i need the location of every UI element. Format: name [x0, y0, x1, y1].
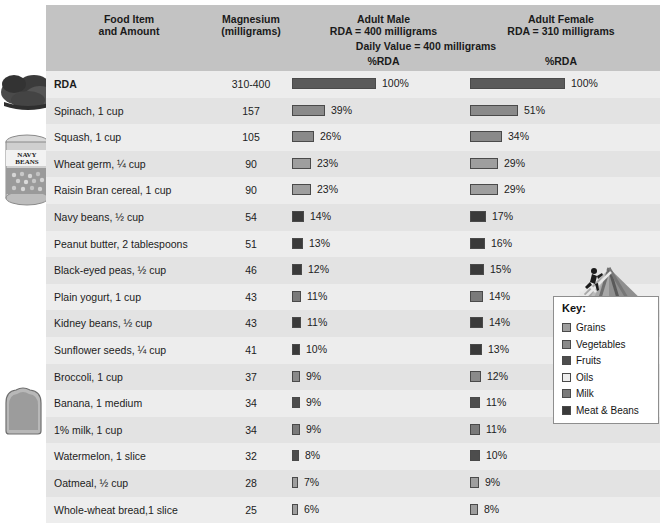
magnesium-value: 25 — [196, 503, 306, 517]
bar-female — [470, 105, 518, 116]
table-row: Whole-wheat bread,1 slice256%8% — [46, 497, 660, 523]
svg-text:BEANS: BEANS — [15, 158, 38, 166]
bar-label-male: 11% — [307, 290, 327, 303]
column-header-magnesium: Magnesium (milligrams) — [196, 13, 306, 37]
bar-cell-male: 14% — [292, 211, 472, 223]
column-header-food-line1: Food Item — [54, 13, 204, 25]
bar-cell-male: 26% — [292, 131, 472, 143]
bar-label-female: 51% — [524, 104, 545, 117]
table-row: Raisin Bran cereal, 1 cup9023%29% — [46, 177, 660, 204]
bar-female — [470, 317, 483, 328]
bar-cell-female: 29% — [470, 158, 660, 170]
pct-rda-male-label: %RDA — [301, 55, 466, 67]
bar-cell-female: 17% — [470, 211, 660, 223]
table-row: Navy beans, ½ cup5414%17% — [46, 204, 660, 231]
bar-label-male: 6% — [304, 503, 319, 516]
bar-cell-male: 23% — [292, 184, 472, 196]
bar-cell-male: 12% — [292, 264, 472, 276]
bar-male — [292, 238, 303, 249]
legend-swatch-icon — [562, 356, 571, 365]
bar-label-female: 8% — [484, 503, 499, 516]
column-header-adult-male-line1: Adult Male — [301, 13, 466, 25]
table-row: Oatmeal, ½ cup287%9% — [46, 470, 660, 497]
bar-label-male: 9% — [306, 370, 321, 383]
bar-label-female: 13% — [488, 343, 509, 356]
legend-key-box: Key: GrainsVegetablesFruitsOilsMilkMeat … — [553, 296, 659, 424]
column-header-adult-female-line2: RDA = 310 milligrams — [466, 25, 656, 37]
bar-female — [470, 344, 482, 355]
table-row: Peanut butter, 2 tablespoons5113%16% — [46, 231, 660, 258]
column-header-adult-male-line2: RDA = 400 milligrams — [301, 25, 466, 37]
bar-female — [470, 78, 565, 89]
column-header-food-line2: and Amount — [54, 25, 204, 37]
bar-cell-female: 10% — [470, 450, 660, 462]
column-header-adult-female: Adult Female RDA = 310 milligrams — [466, 13, 656, 37]
bread-slice-icon — [0, 385, 47, 437]
bar-male — [292, 504, 298, 515]
bar-label-female: 16% — [491, 237, 512, 250]
bar-cell-male: 9% — [292, 424, 472, 436]
magnesium-value: 310-400 — [196, 77, 306, 91]
canned-beans-icon: NAVY BEANS — [2, 130, 52, 208]
legend-title: Key: — [562, 302, 586, 314]
bar-label-male: 23% — [317, 183, 338, 196]
bar-female — [470, 424, 480, 435]
magnesium-value: 46 — [196, 263, 306, 277]
legend-swatch-icon — [562, 323, 571, 332]
magnesium-value: 28 — [196, 476, 306, 490]
table-row: Squash, 1 cup10526%34% — [46, 124, 660, 151]
legend-item-label: Milk — [576, 387, 594, 400]
bar-male — [292, 371, 300, 382]
daily-value-note: Daily Value = 400 milligrams — [196, 40, 656, 52]
legend-item-label: Fruits — [576, 354, 601, 367]
legend-swatch-icon — [562, 340, 571, 349]
bar-male — [292, 78, 376, 89]
column-header-adult-male: Adult Male RDA = 400 milligrams — [301, 13, 466, 37]
bar-label-male: 9% — [306, 423, 321, 436]
bar-cell-female: 11% — [470, 424, 660, 436]
bar-female — [470, 238, 485, 249]
bar-cell-male: 9% — [292, 397, 472, 409]
bar-label-female: 29% — [504, 183, 525, 196]
bar-cell-male: 8% — [292, 450, 472, 462]
magnesium-value: 32 — [196, 449, 306, 463]
bar-label-male: 39% — [331, 104, 352, 117]
bar-cell-male: 13% — [292, 238, 472, 250]
bar-cell-male: 7% — [292, 477, 472, 489]
magnesium-value: 34 — [196, 423, 306, 437]
bar-label-male: 11% — [307, 316, 327, 329]
legend-swatch-icon — [562, 373, 571, 382]
magnesium-value: 157 — [196, 104, 306, 118]
bar-label-female: 9% — [485, 476, 500, 489]
bar-cell-male: 9% — [292, 371, 472, 383]
legend-item-label: Oils — [576, 371, 593, 384]
bar-cell-male: 11% — [292, 317, 472, 329]
bar-male — [292, 397, 300, 408]
legend-item-label: Meat & Beans — [576, 404, 639, 417]
bar-male — [292, 477, 298, 488]
column-header-food: Food Item and Amount — [54, 13, 204, 37]
bar-label-female: 14% — [489, 290, 510, 303]
bar-female — [470, 397, 480, 408]
bar-label-female: 12% — [487, 370, 508, 383]
bar-cell-female: 29% — [470, 184, 660, 196]
bar-male — [292, 291, 301, 302]
bar-cell-male: 100% — [292, 78, 472, 90]
bar-male — [292, 264, 302, 275]
bar-cell-male: 11% — [292, 291, 472, 303]
magnesium-value: 43 — [196, 316, 306, 330]
legend-swatch-icon — [562, 406, 571, 415]
bar-cell-male: 10% — [292, 344, 472, 356]
bar-label-female: 34% — [508, 130, 529, 143]
table-row: Watermelon, 1 slice328%10% — [46, 443, 660, 470]
bar-cell-male: 39% — [292, 105, 472, 117]
bar-cell-female: 8% — [470, 504, 660, 516]
legend-item-label: Vegetables — [576, 338, 626, 351]
bar-female — [470, 450, 480, 461]
bar-female — [470, 477, 479, 488]
magnesium-value: 90 — [196, 183, 306, 197]
bar-cell-female: 100% — [470, 78, 660, 90]
magnesium-value: 51 — [196, 237, 306, 251]
bar-female — [470, 131, 502, 142]
